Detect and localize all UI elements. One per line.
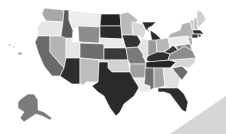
state-ut[interactable] bbox=[66, 38, 80, 58]
us-choropleth-map bbox=[0, 0, 226, 134]
state-fl[interactable] bbox=[158, 88, 188, 112]
state-hi2[interactable] bbox=[13, 46, 15, 48]
state-nd[interactable] bbox=[100, 14, 121, 26]
state-ri[interactable] bbox=[198, 34, 201, 37]
state-wa[interactable] bbox=[42, 8, 64, 22]
state-me[interactable] bbox=[197, 10, 206, 28]
state-ar[interactable] bbox=[130, 64, 146, 78]
state-ny[interactable] bbox=[168, 22, 194, 38]
state-ct[interactable] bbox=[192, 34, 198, 38]
state-ks[interactable] bbox=[104, 48, 128, 60]
states-layer bbox=[8, 8, 206, 122]
state-ak[interactable] bbox=[18, 94, 52, 122]
state-nm[interactable] bbox=[80, 58, 99, 85]
state-hi1[interactable] bbox=[8, 44, 11, 46]
state-co[interactable] bbox=[80, 43, 104, 60]
state-or[interactable] bbox=[37, 21, 63, 36]
state-hi3[interactable] bbox=[18, 52, 22, 55]
state-wy[interactable] bbox=[78, 26, 100, 43]
state-sd[interactable] bbox=[100, 26, 122, 39]
state-ma[interactable] bbox=[192, 30, 204, 34]
